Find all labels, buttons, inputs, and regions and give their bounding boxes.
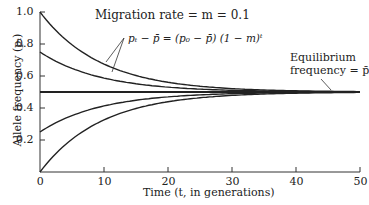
x-tick-label: 50 [353,175,367,188]
y-tick-label: 0.4 [16,101,34,114]
y-tick-label: 0.6 [16,69,34,82]
y-axis-label: Allele frequency (pₜ) [11,37,24,147]
y-tick-label: 1.0 [16,5,34,18]
x-tick-label: 10 [97,175,111,188]
x-tick-label: 30 [225,175,239,188]
equilibrium-label-line1: Equilibrium [290,51,356,64]
series-curve [40,92,360,172]
x-tick-label: 0 [37,175,44,188]
y-tick-label: 0.8 [16,37,34,50]
chart-plot-area [0,0,369,205]
equation-annotation: pₜ − p̄ = (p₀ − p̄) (1 − m)ᵗ [128,32,263,44]
x-tick-label: 20 [161,175,175,188]
y-tick-label: 0.2 [16,133,34,146]
x-tick-label: 40 [289,175,303,188]
equilibrium-label-line2: frequency = p̄ [290,64,369,77]
chart-title: Migration rate = m = 0.1 [95,8,250,22]
